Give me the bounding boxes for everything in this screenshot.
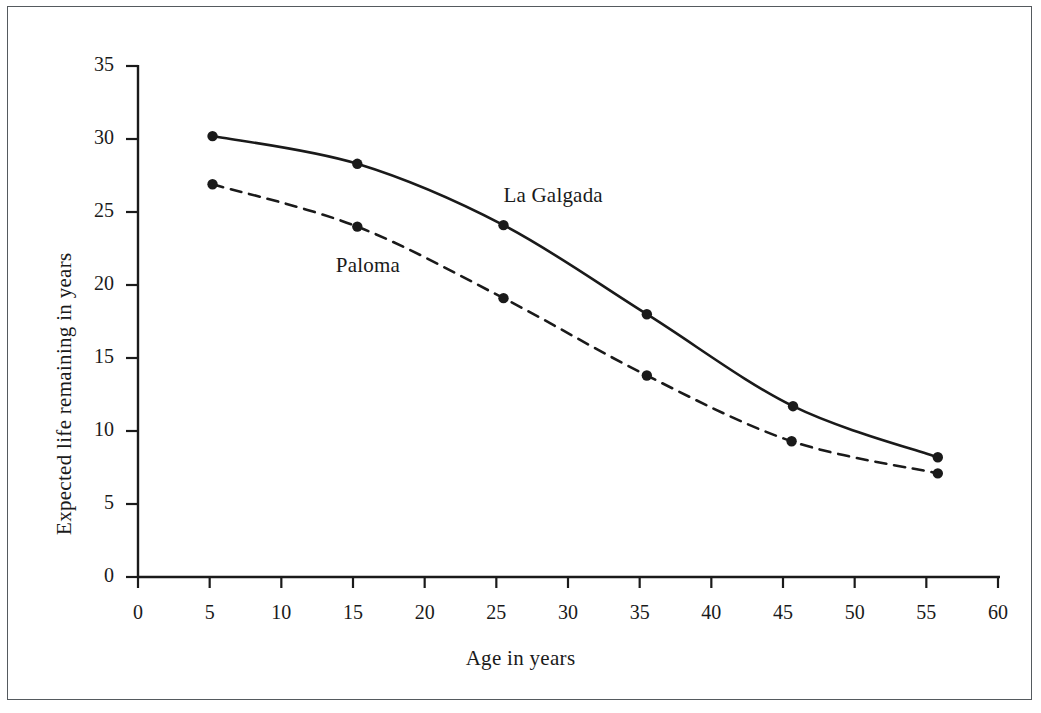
data-point-marker [642,309,652,319]
data-point-marker [498,220,508,230]
x-tick-label: 5 [188,601,232,624]
data-point-marker [207,131,217,141]
series-line-paloma [213,184,938,473]
y-tick-label: 0 [70,564,114,587]
y-tick-label: 30 [70,126,114,149]
x-tick-label: 60 [976,601,1020,624]
data-point-marker [642,370,652,380]
data-point-marker [352,221,362,231]
x-tick-label: 55 [904,601,948,624]
x-tick-label: 40 [689,601,733,624]
axis-lines [138,65,1000,577]
x-tick-label: 10 [259,601,303,624]
x-tick-label: 15 [331,601,375,624]
y-tick-label: 25 [70,199,114,222]
x-axis-title: Age in years [0,646,1041,671]
data-point-marker [933,452,943,462]
data-point-marker [788,401,798,411]
series-label-paloma: Paloma [336,253,400,278]
series-label-la-galgada: La Galgada [504,183,603,208]
x-tick-label: 50 [833,601,877,624]
x-tick-label: 25 [474,601,518,624]
data-point-marker [933,468,943,478]
y-axis-title: Expected life remaining in years [52,253,77,536]
x-tick-label: 20 [403,601,447,624]
x-tick-label: 30 [546,601,590,624]
x-tick-label: 35 [618,601,662,624]
data-point-marker [207,179,217,189]
data-point-marker [352,159,362,169]
x-tick-label: 0 [116,601,160,624]
chart-area: 05101520253035404550556005101520253035 L… [0,0,1041,713]
data-point-marker [498,293,508,303]
y-tick-label: 35 [70,53,114,76]
data-point-marker [786,436,796,446]
x-tick-label: 45 [761,601,805,624]
